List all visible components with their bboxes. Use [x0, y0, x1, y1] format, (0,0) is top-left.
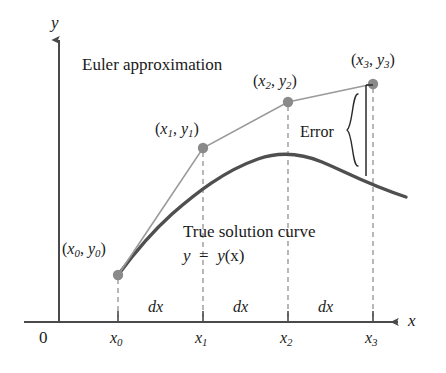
point-label-3: (x3, y3)	[351, 52, 395, 70]
point-label-0-comma: ,	[80, 240, 88, 257]
point-label-2: (x2, y2)	[253, 73, 297, 91]
origin-label: 0	[39, 329, 48, 346]
equation-equals: =	[199, 246, 209, 265]
point-label-0-close: )	[100, 240, 105, 257]
point-label-0: (x0, y0)	[62, 241, 106, 259]
point-label-3-y: y	[377, 51, 384, 68]
euler-point-1	[198, 143, 208, 153]
equation-lhs: y	[183, 246, 191, 265]
tick-label-x3-sub: 3	[372, 336, 377, 348]
euler-approximation-figure: y x 0 Euler approximation True solution …	[0, 0, 446, 373]
point-label-3-close: )	[389, 51, 394, 68]
tick-label-x1-sub: 1	[202, 336, 207, 348]
true-solution-curve	[118, 154, 406, 275]
tick-label-x2-sub: 2	[287, 336, 292, 348]
step-label-0: dx	[148, 299, 163, 315]
tick-label-x3: x3	[365, 330, 378, 348]
true-solution-equation: y = y(x)	[183, 247, 245, 264]
point-label-1-comma: ,	[173, 120, 181, 137]
euler-point-0	[113, 270, 123, 280]
y-axis-label: y	[51, 14, 59, 31]
x-axis-label: x	[408, 312, 416, 329]
point-label-2-y: y	[279, 72, 286, 89]
euler-approximation-polyline	[118, 84, 373, 275]
tick-label-x2: x2	[280, 330, 293, 348]
error-measure-group	[347, 85, 373, 176]
equation-rhs-arg: (x)	[225, 246, 245, 265]
euler-points-group	[113, 79, 378, 280]
error-brace	[347, 94, 358, 166]
step-label-2: dx	[318, 299, 333, 315]
tick-label-x1: x1	[195, 330, 208, 348]
point-label-2-comma: ,	[271, 72, 279, 89]
equation-rhs-fn: y	[217, 246, 225, 265]
tick-label-x0: x0	[110, 330, 123, 348]
euler-point-2	[283, 97, 293, 107]
axes-group	[24, 40, 398, 322]
point-label-0-y: y	[88, 240, 95, 257]
point-label-1-close: )	[193, 120, 198, 137]
tick-label-x0-sub: 0	[117, 336, 122, 348]
step-label-1: dx	[233, 299, 248, 315]
point-label-1: (x1, y1)	[155, 121, 199, 139]
point-label-1-y: y	[181, 120, 188, 137]
point-label-2-close: )	[291, 72, 296, 89]
euler-point-3	[368, 79, 378, 89]
point-label-3-comma: ,	[369, 51, 377, 68]
euler-approximation-caption: Euler approximation	[82, 56, 222, 73]
error-label: Error	[300, 124, 334, 140]
true-solution-caption: True solution curve	[183, 223, 316, 240]
